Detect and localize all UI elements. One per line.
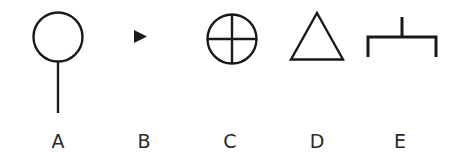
symbol-e-bracket-tick-icon [368, 17, 436, 57]
symbol-label-a: A [43, 130, 73, 152]
symbol-label-d: D [302, 130, 332, 152]
symbol-d-triangle-icon [291, 13, 343, 60]
symbol-label-c: C [215, 130, 245, 152]
symbol-b-play-triangle-icon [134, 30, 147, 43]
symbol-label-b: B [129, 130, 159, 152]
symbol-a-circle-stem-icon [34, 13, 83, 114]
symbol-c-crossed-circle-icon [208, 15, 257, 64]
symbol-diagram: A B C D E [0, 0, 467, 158]
symbol-label-e: E [385, 130, 415, 152]
